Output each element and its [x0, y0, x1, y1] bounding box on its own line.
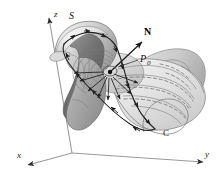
y-axis-line [72, 153, 203, 162]
x-axis-line [28, 153, 72, 165]
diagram-canvas: z x y [0, 0, 223, 177]
point-p0-subscript: 0 [147, 59, 151, 67]
surface-s [50, 21, 206, 134]
surface-diagram-figure: z x y [0, 0, 223, 177]
curve-c-label: C [163, 128, 169, 138]
y-axis-label: y [204, 149, 209, 159]
surface-s-label: S [69, 10, 74, 21]
point-p0-label: P [139, 53, 146, 64]
z-axis-label: z [53, 9, 58, 19]
x-axis-label: x [16, 150, 21, 160]
point-p0-marker [108, 70, 112, 74]
normal-vector-label: N [144, 26, 152, 37]
